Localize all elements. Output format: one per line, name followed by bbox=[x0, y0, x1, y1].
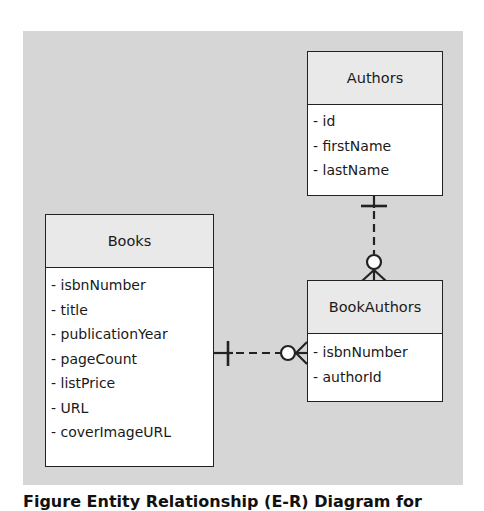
attribute: - firstName bbox=[313, 134, 442, 159]
attribute: - publicationYear bbox=[51, 322, 213, 347]
relationship-authors-bookauthors bbox=[361, 195, 387, 281]
entity-books: Books - isbnNumber - title - publication… bbox=[45, 214, 214, 467]
attribute: - pageCount bbox=[51, 347, 213, 372]
attribute: - authorId bbox=[313, 365, 442, 390]
entity-bookauthors-title: BookAuthors bbox=[308, 281, 442, 334]
entity-authors-title: Authors bbox=[308, 52, 442, 105]
attribute: - isbnNumber bbox=[51, 273, 213, 298]
attribute: - isbnNumber bbox=[313, 340, 442, 365]
attribute: - lastName bbox=[313, 158, 442, 183]
figure-caption: Figure Entity Relationship (E-R) Diagram… bbox=[23, 492, 422, 511]
attribute: - URL bbox=[51, 396, 213, 421]
attribute: - title bbox=[51, 298, 213, 323]
attribute: - coverImageURL bbox=[51, 420, 213, 445]
entity-books-attributes: - isbnNumber - title - publicationYear -… bbox=[46, 268, 213, 445]
entity-authors: Authors - id - firstName - lastName bbox=[307, 51, 443, 196]
entity-books-title: Books bbox=[46, 215, 213, 268]
attribute: - listPrice bbox=[51, 371, 213, 396]
relationship-books-bookauthors bbox=[213, 341, 308, 366]
entity-bookauthors-attributes: - isbnNumber - authorId bbox=[308, 334, 442, 389]
entity-authors-attributes: - id - firstName - lastName bbox=[308, 105, 442, 183]
attribute: - id bbox=[313, 109, 442, 134]
entity-bookauthors: BookAuthors - isbnNumber - authorId bbox=[307, 280, 443, 402]
